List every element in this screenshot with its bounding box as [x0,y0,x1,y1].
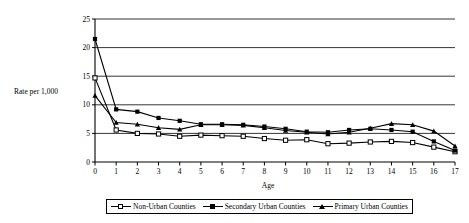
data-point-marker [305,138,309,142]
y-tick-label: 25 [83,15,91,24]
y-tick-label: 10 [83,100,91,109]
data-point-marker [93,76,97,80]
x-tick-label: 7 [241,167,245,176]
data-point-marker [156,132,160,136]
data-point-marker [326,142,330,146]
data-point-marker [93,37,97,41]
gridlines-group [95,19,455,133]
x-tick-label: 10 [303,167,311,176]
data-point-marker [411,130,415,134]
x-tick-label: 0 [93,167,97,176]
data-point-marker [92,93,97,98]
series-line [95,96,455,146]
axes-group [95,19,455,162]
data-point-marker [114,107,118,111]
x-tick-label: 6 [220,167,224,176]
data-point-marker [135,110,139,114]
legend-label: Secondary Urban Counties [225,202,306,211]
x-axis-ticks: 01234567891011121314151617 [93,162,459,176]
data-point-marker [199,133,203,137]
legend-item-secondary-urban-counties: Secondary Urban Counties [203,202,306,211]
chart-plot-area: 0510152025 01234567891011121314151617 Ag… [0,0,469,223]
x-tick-label: 9 [284,167,288,176]
x-tick-label: 1 [114,167,118,176]
chart-legend: Non-Urban Counties Secondary Urban Count… [106,199,413,214]
data-point-marker [368,140,372,144]
y-tick-label: 0 [86,158,90,167]
legend-item-primary-urban-counties: Primary Urban Counties [313,202,408,211]
data-point-marker [262,136,266,140]
data-point-marker [156,116,160,120]
data-point-marker [389,139,393,143]
data-point-marker [135,131,139,135]
filled-square-marker-icon [203,202,223,211]
chart-container: Rate per 1,000 0510152025 01234567891011… [0,0,469,223]
data-series-group [92,37,457,154]
x-tick-label: 12 [345,167,353,176]
y-tick-label: 15 [83,72,91,81]
x-tick-label: 15 [409,167,417,176]
y-tick-label: 20 [83,43,91,52]
data-point-marker [389,128,393,132]
data-point-marker [432,145,436,149]
x-tick-label: 8 [263,167,267,176]
data-point-marker [241,134,245,138]
open-square-marker-icon [111,202,131,211]
x-axis-title: Age [262,181,275,190]
y-tick-label: 5 [86,129,90,138]
data-point-marker [432,139,436,143]
x-tick-label: 16 [430,167,438,176]
data-point-marker [347,141,351,145]
x-tick-label: 4 [178,167,182,176]
legend-item-non-urban-counties: Non-Urban Counties [111,202,196,211]
x-tick-label: 11 [324,167,331,176]
x-tick-label: 2 [135,167,139,176]
data-point-marker [178,119,182,123]
x-tick-label: 13 [367,167,375,176]
data-point-marker [220,134,224,138]
legend-label: Primary Urban Counties [335,202,408,211]
data-point-marker [453,148,457,152]
x-tick-label: 5 [199,167,203,176]
legend-label: Non-Urban Counties [133,202,196,211]
x-tick-label: 3 [157,167,161,176]
filled-triangle-marker-icon [313,202,333,211]
data-point-marker [114,128,118,132]
x-tick-label: 14 [388,167,396,176]
data-point-marker [283,138,287,142]
x-tick-label: 17 [451,167,459,176]
data-point-marker [411,140,415,144]
data-point-marker [178,134,182,138]
